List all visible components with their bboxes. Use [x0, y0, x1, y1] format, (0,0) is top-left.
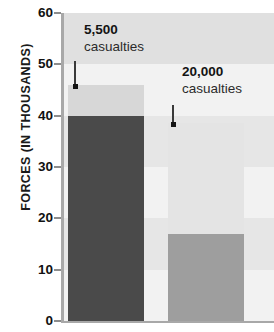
bar-left: [68, 85, 144, 321]
y-axis-tick-mark: [54, 63, 61, 65]
bar-segment-upper: [168, 123, 244, 233]
annotation-value: 5,500: [84, 21, 144, 38]
annotation-leader-line: [74, 61, 76, 85]
y-axis-tick-mark: [54, 166, 61, 168]
y-axis-tick-label: 0: [45, 313, 53, 329]
y-axis-tick-mark: [54, 320, 61, 322]
annotation-label: casualties: [182, 80, 242, 98]
y-axis-tick-label: 40: [38, 108, 53, 124]
y-axis-tick-label: 10: [38, 262, 53, 278]
annotation-leader-line: [172, 105, 174, 123]
plot-area: 5,500casualties20,000casualties: [64, 13, 274, 321]
y-axis: 0102030405060: [0, 0, 62, 332]
annotation-label: casualties: [84, 38, 144, 56]
annotation-leader-dot: [73, 84, 78, 89]
annotation-leader-dot: [171, 122, 176, 127]
bar-segment-lower: [68, 116, 144, 321]
y-axis-tick-mark: [54, 269, 61, 271]
bar-segment-upper: [68, 85, 144, 116]
y-axis-tick-label: 30: [38, 159, 53, 175]
annotation-right: 20,000casualties: [182, 63, 242, 98]
annotation-value: 20,000: [182, 63, 242, 80]
bar-segment-lower: [168, 234, 244, 321]
annotation-left: 5,500casualties: [84, 21, 144, 56]
y-axis-tick-mark: [54, 217, 61, 219]
y-axis-tick-mark: [54, 115, 61, 117]
y-axis-tick-label: 20: [38, 210, 53, 226]
bar-right: [168, 123, 244, 321]
bar-chart: FORCES (IN THOUSANDS) 0102030405060 5,50…: [0, 0, 274, 332]
y-axis-tick-label: 60: [38, 5, 53, 21]
y-axis-tick-mark: [54, 12, 61, 14]
y-axis-tick-label: 50: [38, 56, 53, 72]
